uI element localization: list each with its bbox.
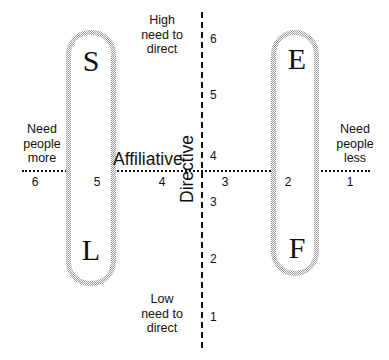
x-tick-1: 1 — [340, 176, 360, 188]
axis-label-affiliative: Affiliative — [113, 150, 183, 168]
y-tick-6: 6 — [210, 33, 226, 45]
pole-label-high-need-to-direct: High need to direct — [128, 13, 196, 57]
axis-label-directive: Directive — [178, 103, 196, 203]
x-tick-5: 5 — [87, 176, 107, 188]
social-style-grid-diagram: S L E F Affiliative Directive Need peopl… — [0, 0, 389, 360]
y-tick-3: 3 — [210, 196, 226, 208]
y-tick-2: 2 — [210, 253, 226, 265]
pole-label-need-people-less: Need people less — [321, 122, 389, 166]
x-tick-4: 4 — [152, 176, 172, 188]
style-letter-e: E — [277, 44, 317, 74]
pole-label-need-people-more: Need people more — [8, 122, 76, 166]
x-tick-6: 6 — [25, 176, 45, 188]
style-letter-f: F — [277, 233, 317, 263]
vertical-axis-line — [201, 12, 203, 348]
x-tick-3: 3 — [215, 176, 235, 188]
y-tick-1: 1 — [210, 311, 226, 323]
pole-label-low-need-to-direct: Low need to direct — [128, 292, 196, 336]
style-letter-s: S — [71, 46, 111, 76]
y-tick-4: 4 — [210, 150, 226, 162]
y-tick-5: 5 — [210, 89, 226, 101]
x-tick-2: 2 — [278, 176, 298, 188]
style-letter-l: L — [71, 235, 111, 265]
